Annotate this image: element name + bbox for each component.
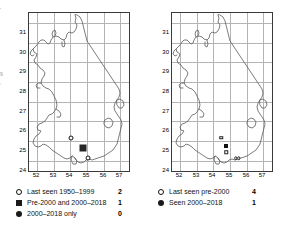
map-panel-right: 31 30 29 28 27 26 25 24: [143, 0, 285, 230]
legend-count: 1: [252, 197, 256, 208]
y-tick-30: 30: [143, 49, 169, 55]
plot-area-right: [171, 12, 273, 172]
data-point-filled-square: [224, 144, 228, 148]
legend-label: 2000–2018 only: [27, 210, 77, 217]
legend-left: Last seen 1950–1999 2 Pre-2000 and 2000–…: [14, 186, 140, 219]
data-point-open-circle: [69, 135, 74, 140]
open-circle-icon: [14, 187, 23, 196]
y-tick-27: 27: [143, 108, 169, 114]
legend-count: 2: [118, 186, 122, 197]
legend-count: 0: [118, 208, 122, 219]
legend-item: Pre-2000 and 2000–2018 1: [14, 197, 140, 208]
x-tick-57: 57: [255, 172, 269, 178]
y-tick-31: 31: [143, 29, 169, 35]
x-tick-52: 52: [172, 172, 186, 178]
legend-right: Last seen pre-2000 4 Seen 2000–2018 1: [156, 186, 282, 208]
y-tick-29: 29: [143, 68, 169, 74]
x-tick-53: 53: [189, 172, 203, 178]
x-axis-left: 52 53 54 55 56 57: [28, 172, 128, 181]
map-panel-left: 31 30 29 28 27 26 25 24: [0, 0, 142, 230]
y-tick-28: 28: [0, 88, 26, 94]
x-tick-56: 56: [239, 172, 253, 178]
y-tick-25: 25: [143, 147, 169, 153]
x-tick-52: 52: [29, 172, 43, 178]
x-tick-54: 54: [205, 172, 219, 178]
y-tick-24: 24: [0, 167, 26, 173]
legend-label: Last seen 1950–1999: [27, 188, 94, 195]
y-tick-26: 26: [143, 127, 169, 133]
legend-label: Last seen pre-2000: [169, 188, 229, 195]
x-tick-55: 55: [79, 172, 93, 178]
legend-label: Pre-2000 and 2000–2018: [27, 199, 106, 206]
y-axis-left: 31 30 29 28 27 26 25 24: [0, 12, 26, 170]
x-axis-right: 52 53 54 55 56 57: [171, 172, 271, 181]
legend-item: Last seen 1950–1999 2: [14, 186, 140, 197]
y-tick-28: 28: [143, 88, 169, 94]
x-tick-57: 57: [112, 172, 126, 178]
data-point-open-circle: [86, 156, 91, 161]
x-tick-56: 56: [96, 172, 110, 178]
legend-label: Seen 2000–2018: [169, 199, 222, 206]
y-tick-27: 27: [0, 108, 26, 114]
filled-circle-icon: [14, 209, 23, 218]
y-tick-25: 25: [0, 147, 26, 153]
filled-square-icon: [14, 198, 23, 207]
legend-item: 2000–2018 only 0: [14, 208, 140, 219]
y-tick-24: 24: [143, 167, 169, 173]
data-point-filled-square: [79, 144, 86, 151]
filled-circle-icon: [156, 198, 165, 207]
open-circle-icon: [156, 187, 165, 196]
legend-count: 4: [252, 186, 256, 197]
y-tick-30: 30: [0, 49, 26, 55]
x-tick-55: 55: [222, 172, 236, 178]
y-axis-right: 31 30 29 28 27 26 25 24: [143, 12, 169, 170]
coastline-right: [172, 13, 272, 171]
legend-item: Seen 2000–2018 1: [156, 197, 282, 208]
legend-item: Last seen pre-2000 4: [156, 186, 282, 197]
y-tick-31: 31: [0, 29, 26, 35]
y-tick-29: 29: [0, 68, 26, 74]
legend-count: 1: [118, 197, 122, 208]
data-point-open-square: [219, 136, 223, 140]
x-tick-54: 54: [62, 172, 76, 178]
data-point-open-circle: [237, 156, 241, 160]
plot-area-left: [28, 12, 130, 172]
y-tick-26: 26: [0, 127, 26, 133]
x-tick-53: 53: [46, 172, 60, 178]
data-point-open-square: [224, 150, 228, 154]
